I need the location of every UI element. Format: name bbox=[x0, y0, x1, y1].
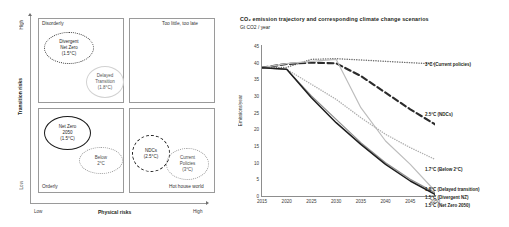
figure-root: High Transition risks Low Low Physical r… bbox=[0, 0, 509, 227]
bubble-divergent-net-zero-line3: (1.5°C) bbox=[62, 51, 76, 57]
chart-x-tick-2015: 2015 bbox=[257, 199, 267, 204]
matrix-y-axis-arrow-icon bbox=[28, 13, 32, 16]
chart-x-tick-2025: 2025 bbox=[306, 199, 316, 204]
chart-y-tick-25: 25 bbox=[237, 110, 259, 115]
bubble-delayed-transition[interactable]: Delayed Transition (1.8°C) bbox=[86, 66, 124, 98]
bubble-below-2c-line2: 2°C bbox=[97, 161, 105, 167]
matrix-y-axis-line bbox=[30, 16, 31, 203]
chart-y-tick-30: 30 bbox=[237, 94, 259, 99]
emissions-chart: CO₂ emission trajectory and correspondin… bbox=[237, 0, 509, 227]
bubble-ndcs[interactable]: NDCs (2.5°C) bbox=[132, 135, 170, 172]
chart-series-1-8-c-delayed-transition- bbox=[262, 59, 435, 191]
bubble-net-zero-2050[interactable]: Net Zero 2050 (1.5°C) bbox=[44, 116, 91, 150]
bubble-ndcs-line2: (2.5°C) bbox=[144, 154, 158, 160]
bubble-net-zero-2050-line3: (1.5°C) bbox=[60, 136, 74, 142]
chart-y-tick-0: 0 bbox=[237, 194, 259, 199]
chart-subtitle: Gt CO2 / year bbox=[240, 25, 270, 30]
matrix-x-axis-high-label: High bbox=[193, 209, 202, 214]
matrix-x-axis-low-label: Low bbox=[34, 209, 42, 214]
chart-x-tick-2035: 2035 bbox=[356, 199, 366, 204]
chart-y-tick-5: 5 bbox=[237, 177, 259, 182]
chart-y-tick-20: 20 bbox=[237, 127, 259, 132]
chart-series-2-5-c-ndcs- bbox=[262, 63, 435, 125]
chart-x-tick-2040: 2040 bbox=[380, 199, 390, 204]
chart-y-tick-35: 35 bbox=[237, 77, 259, 82]
chart-x-tick-2020: 2020 bbox=[282, 199, 292, 204]
quadrant-label-hot-house-world: Hot house world bbox=[169, 184, 204, 189]
quadrant-label-orderly: Orderly bbox=[42, 184, 58, 189]
chart-x-tick-2045: 2045 bbox=[405, 199, 415, 204]
chart-legend-item-delayed-transition[interactable]: 1.8°C (Delayed transition) bbox=[425, 187, 480, 192]
quadrant-label-too-little-too-late: Too little, too late bbox=[162, 21, 198, 26]
chart-legend-item-net-zero-2050[interactable]: 1.5°C (Net Zero 2050) bbox=[425, 203, 470, 208]
quadrant-label-disorderly: Disorderly bbox=[42, 21, 64, 26]
chart-legend-item-current-policies[interactable]: 3°C (Current policies) bbox=[425, 62, 471, 67]
bubble-current-policies-line3: (3°C) bbox=[182, 167, 193, 173]
chart-legend-item-divergent-nz[interactable]: 1.5°C (Divergent NZ) bbox=[425, 195, 469, 200]
bubble-divergent-net-zero[interactable]: Divergent Net Zero (1.5°C) bbox=[44, 32, 94, 64]
bubble-delayed-transition-line3: (1.8°C) bbox=[98, 85, 112, 91]
chart-title: CO₂ emission trajectory and correspondin… bbox=[240, 16, 429, 22]
matrix-y-axis-high-label: High bbox=[19, 20, 24, 29]
chart-y-tick-15: 15 bbox=[237, 144, 259, 149]
chart-series-1-5-c-divergent-nz- bbox=[262, 68, 435, 193]
matrix-x-axis-arrow-icon bbox=[206, 201, 209, 205]
chart-plot-area bbox=[262, 46, 435, 196]
matrix-y-axis-low-label: Low bbox=[19, 181, 24, 189]
chart-series-1-7-c-below-2-c- bbox=[262, 68, 435, 160]
bubble-below-2c[interactable]: Below 2°C bbox=[79, 147, 123, 174]
ngfs-risk-matrix: High Transition risks Low Low Physical r… bbox=[0, 0, 237, 227]
chart-y-tick-10: 10 bbox=[237, 160, 259, 165]
quadrant-too-little-too-late[interactable] bbox=[129, 18, 215, 103]
chart-x-tick-2030: 2030 bbox=[331, 199, 341, 204]
matrix-x-axis-title: Physical risks bbox=[98, 209, 131, 215]
chart-y-tick-40: 40 bbox=[237, 60, 259, 65]
bubble-current-policies[interactable]: Current Policies (3°C) bbox=[166, 148, 209, 180]
matrix-y-axis-title: Transition risks bbox=[17, 78, 23, 115]
chart-y-tick-45: 45 bbox=[237, 44, 259, 49]
chart-legend-item-ndcs[interactable]: 2.5°C (NDCs) bbox=[425, 112, 453, 117]
chart-legend-item-below-2c[interactable]: 1.7°C (Below 2°C) bbox=[425, 167, 463, 172]
chart-x-axis-line bbox=[261, 196, 436, 197]
matrix-x-axis-line bbox=[30, 203, 207, 204]
